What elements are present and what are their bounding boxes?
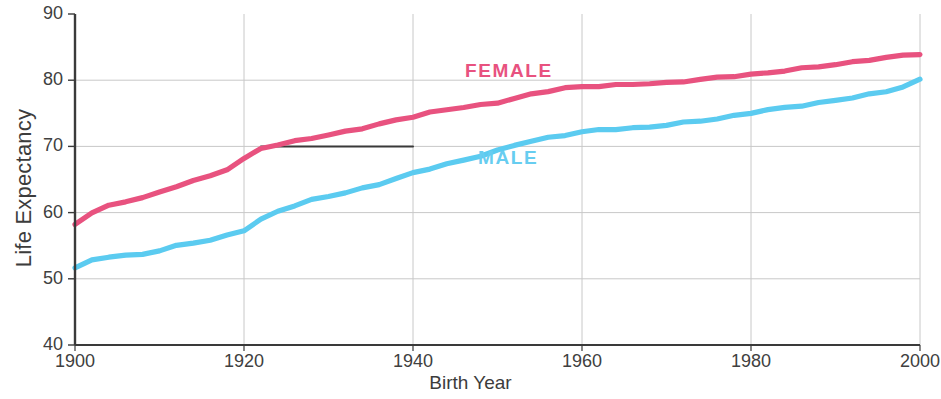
x-axis-tick-label: 1980 bbox=[706, 352, 796, 370]
x-axis-tick-label: 1960 bbox=[537, 352, 627, 370]
x-axis-tick-label: 2000 bbox=[875, 352, 941, 370]
y-axis-title: Life Expectancy bbox=[11, 78, 37, 298]
life-expectancy-chart: Life Expectancy Birth Year 405060708090 … bbox=[0, 0, 941, 399]
x-axis-tick-label: 1920 bbox=[199, 352, 289, 370]
x-axis-title: Birth Year bbox=[0, 372, 941, 394]
y-axis-tick-label: 90 bbox=[19, 4, 63, 22]
series-label-male: MALE bbox=[478, 148, 538, 167]
y-axis-tick-label: 70 bbox=[19, 136, 63, 154]
series-line-male bbox=[75, 79, 920, 268]
x-axis-tick-label: 1940 bbox=[368, 352, 458, 370]
y-axis-tick-label: 50 bbox=[19, 269, 63, 287]
series-label-female: FEMALE bbox=[465, 61, 553, 80]
x-axis-tick-label: 1900 bbox=[30, 352, 120, 370]
y-axis-tick-label: 60 bbox=[19, 203, 63, 221]
y-axis-tick-label: 80 bbox=[19, 70, 63, 88]
